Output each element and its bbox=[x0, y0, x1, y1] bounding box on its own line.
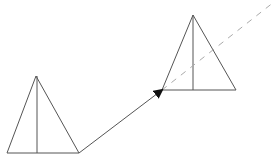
left-triangle-outline bbox=[7, 76, 79, 153]
right-triangle bbox=[162, 15, 236, 90]
transform-arrow bbox=[79, 90, 162, 153]
diagram-svg bbox=[0, 0, 276, 160]
diagram-canvas bbox=[0, 0, 276, 160]
dashed-direction-line bbox=[162, 2, 274, 90]
right-triangle-outline bbox=[162, 15, 236, 90]
left-triangle bbox=[7, 76, 79, 153]
